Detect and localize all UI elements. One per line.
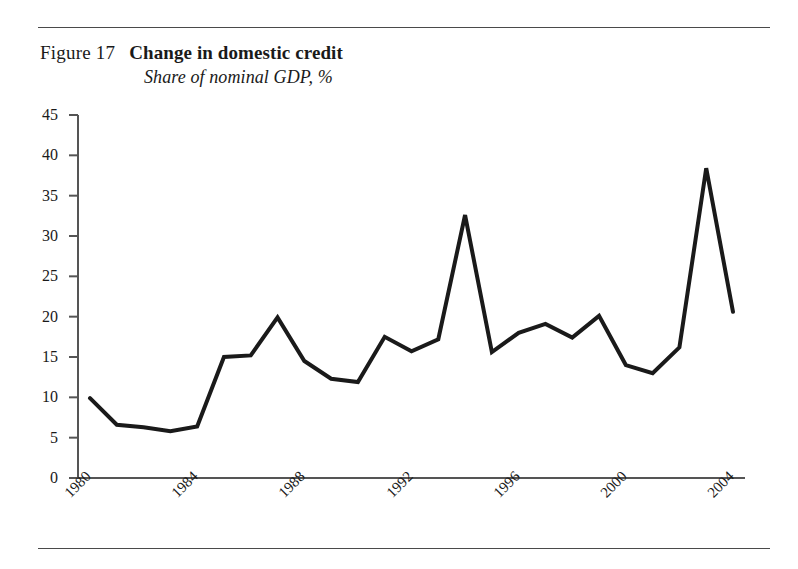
chart-plot-area: 051015202530354045 198019841988199219962… xyxy=(0,0,798,569)
y-tick-label: 15 xyxy=(18,349,58,365)
y-tick-label: 45 xyxy=(18,107,58,123)
y-tick-label: 20 xyxy=(18,309,58,325)
y-tick-label: 0 xyxy=(18,470,58,486)
data-series-line xyxy=(90,168,733,431)
figure-bottom-rule xyxy=(38,548,770,549)
y-tick-label: 35 xyxy=(18,188,58,204)
y-tick-label: 25 xyxy=(18,268,58,284)
y-tick-marks xyxy=(69,115,78,478)
y-tick-label: 40 xyxy=(18,147,58,163)
axis-group xyxy=(78,115,745,478)
figure-container: Figure 17 Change in domestic credit Shar… xyxy=(0,0,798,569)
y-tick-label: 10 xyxy=(18,389,58,405)
y-tick-label: 5 xyxy=(18,430,58,446)
data-series-group xyxy=(90,168,733,431)
y-tick-label: 30 xyxy=(18,228,58,244)
